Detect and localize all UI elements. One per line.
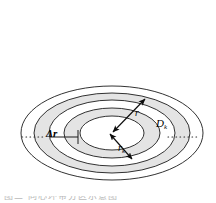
annular-zones-diagram xyxy=(0,0,216,203)
figure-root: Δr r rk Dk 图三 同心环带分区示意图 xyxy=(0,0,216,203)
caption-text: 图三 同心环带分区示意图 xyxy=(4,196,118,202)
label-r-k-subscript: k xyxy=(122,147,125,154)
label-d-k: Dk xyxy=(156,118,167,131)
label-delta-r: Δr xyxy=(46,128,57,139)
band-outer xyxy=(34,93,190,173)
label-r: r xyxy=(135,108,139,118)
label-r-k: rk xyxy=(118,143,125,154)
ellipse-1-inner xyxy=(80,116,144,150)
label-d-k-base: D xyxy=(156,117,164,129)
label-d-k-subscript: k xyxy=(164,123,167,130)
caption-strip: 图三 同心环带分区示意图 xyxy=(0,196,216,203)
